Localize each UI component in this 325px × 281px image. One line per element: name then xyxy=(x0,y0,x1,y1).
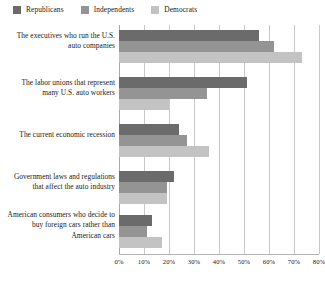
bar-group: Government laws and regulations that aff… xyxy=(119,171,319,204)
bar-group: The executives who run the U.S. auto com… xyxy=(119,30,319,63)
legend-swatch-icon xyxy=(81,6,89,14)
bar xyxy=(119,124,179,135)
legend-swatch-icon xyxy=(151,6,159,14)
legend-item-democrats: Democrats xyxy=(151,5,197,14)
bar xyxy=(119,77,247,88)
bar-chart: The executives who run the U.S. auto com… xyxy=(0,22,323,281)
x-tick-label: 80% xyxy=(313,257,325,266)
category-label: The current economic recession xyxy=(7,129,115,140)
bar xyxy=(119,52,302,63)
bar xyxy=(119,41,274,52)
bar xyxy=(119,171,174,182)
x-tick-label: 0% xyxy=(115,257,124,266)
bar xyxy=(119,99,169,110)
x-axis-tick-labels: 0%10%20%30%40%50%60%70%80% xyxy=(119,257,319,271)
legend-label: Republicans xyxy=(26,5,64,14)
bar-group: The labor unions that represent many U.S… xyxy=(119,77,319,110)
bar xyxy=(119,88,207,99)
category-label: The executives who run the U.S. auto com… xyxy=(7,30,115,51)
bar xyxy=(119,237,162,248)
x-tick-label: 40% xyxy=(213,257,225,266)
gridline-80 xyxy=(319,25,320,254)
plot-area: The executives who run the U.S. auto com… xyxy=(119,25,319,254)
bar xyxy=(119,193,167,204)
bar xyxy=(119,146,209,157)
x-tick-label: 60% xyxy=(263,257,275,266)
chart-legend: RepublicansIndependentsDemocrats xyxy=(13,3,214,16)
legend-label: Democrats xyxy=(164,5,197,14)
x-tick-label: 50% xyxy=(238,257,250,266)
x-tick-label: 70% xyxy=(288,257,300,266)
legend-swatch-icon xyxy=(13,6,21,14)
x-tick-label: 20% xyxy=(163,257,175,266)
x-tick-label: 10% xyxy=(138,257,150,266)
bar xyxy=(119,215,152,226)
category-label: American consumers who decide to buy for… xyxy=(7,210,115,242)
legend-item-independents: Independents xyxy=(81,5,135,14)
category-label: The labor unions that represent many U.S… xyxy=(7,77,115,98)
bar xyxy=(119,30,259,41)
x-axis-baseline xyxy=(119,254,319,255)
x-tick-label: 30% xyxy=(188,257,200,266)
bar xyxy=(119,182,167,193)
category-label: Government laws and regulations that aff… xyxy=(7,171,115,192)
bar xyxy=(119,135,187,146)
legend-label: Independents xyxy=(94,5,135,14)
bar-group: American consumers who decide to buy for… xyxy=(119,215,319,248)
bar xyxy=(119,226,147,237)
legend-item-republicans: Republicans xyxy=(13,5,64,14)
bar-group: The current economic recession xyxy=(119,124,319,157)
